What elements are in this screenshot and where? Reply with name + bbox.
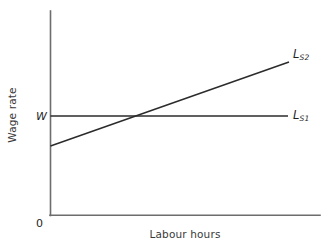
series-line-ls2 (51, 62, 290, 146)
y-axis-title: Wage rate (7, 60, 18, 115)
series-label-ls1: LS1 (293, 110, 309, 122)
y-tick-label-wage: W (36, 111, 47, 122)
origin-label: 0 (36, 218, 43, 229)
labour-supply-chart: Wage rate Labour hours W 0 LS2 LS1 (0, 0, 334, 250)
series-label-ls2: LS2 (293, 49, 309, 61)
y-axis-title-text: Wage rate (7, 87, 18, 142)
chart-canvas (0, 0, 334, 250)
x-axis-title: Labour hours (149, 229, 220, 240)
series-label-ls1-sub: S1 (299, 114, 309, 123)
series-label-ls2-sub: S2 (299, 53, 309, 62)
